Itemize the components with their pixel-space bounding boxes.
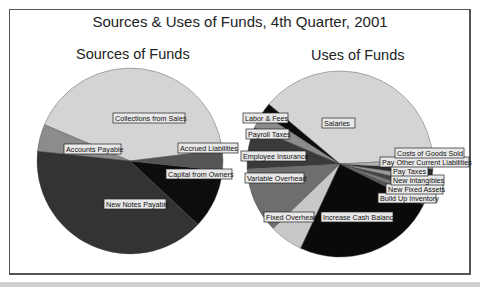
label-build-up-inventory: Build Up Inventory [380,194,439,203]
bottom-divider [0,282,480,287]
label-accrued-liabilities: Accrued Liabilities [180,144,238,153]
label-new-intangibles: New Intangibles [393,176,445,185]
label-new-fixed-assets: New Fixed Assets [388,185,446,194]
label-costs-of-goods-sold: Costs of Goods Sold [397,149,463,158]
label-capital-from-owners: Capital from Owners [168,170,234,179]
pie-charts: Collections from Sales Accounts Payable … [0,0,480,287]
label-fixed-overhead: Fixed Overhead [266,213,317,222]
label-variable-overhead: Variable Overhead [247,174,306,183]
label-accounts-payable: Accounts Payable [66,145,124,154]
label-salaries: Salaries [324,119,350,128]
label-payroll-taxes: Payroll Taxes [248,130,291,139]
label-pay-other-current-liabilities: Pay Other Current Liabilities [382,158,472,167]
label-collections-from-sales: Collections from Sales [115,114,187,123]
label-pay-taxes: Pay Taxes [393,167,426,176]
sources-pie [37,68,223,254]
label-increase-cash-balance: Increase Cash Balance [323,213,397,222]
label-new-notes-payable: New Notes Payable [106,200,169,209]
label-employee-insurance: Employee Insurance [243,152,309,161]
label-labor-fees: Labor & Fees [245,114,289,123]
